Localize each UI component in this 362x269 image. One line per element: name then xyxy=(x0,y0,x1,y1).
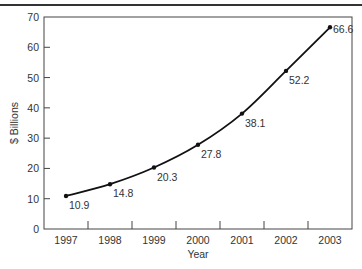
data-label: 38.1 xyxy=(245,117,266,129)
y-tick-label: 40 xyxy=(27,102,39,114)
data-point xyxy=(328,25,332,29)
x-axis-title: Year xyxy=(187,248,209,260)
x-tick-label: 2003 xyxy=(318,234,342,246)
x-axis: 1997199819992000200120022003 xyxy=(54,221,342,246)
data-label: 66.6 xyxy=(333,23,354,35)
data-label: 27.8 xyxy=(201,148,222,160)
x-tick-label: 1999 xyxy=(142,234,166,246)
data-point xyxy=(108,182,112,186)
line-chart: 010203040506070 199719981999200020012002… xyxy=(0,0,362,269)
series-line xyxy=(66,27,330,196)
y-tick-label: 0 xyxy=(33,223,39,235)
data-label: 20.3 xyxy=(157,171,178,183)
plot-frame xyxy=(44,17,352,229)
data-point xyxy=(152,165,156,169)
data-points: 10.914.820.327.838.152.266.6 xyxy=(64,23,354,211)
x-tick-label: 1998 xyxy=(98,234,122,246)
y-axis: 010203040506070 xyxy=(27,11,50,235)
y-tick-label: 20 xyxy=(27,162,39,174)
x-tick-label: 2002 xyxy=(274,234,298,246)
y-tick-label: 60 xyxy=(27,41,39,53)
y-tick-label: 70 xyxy=(27,11,39,23)
data-point xyxy=(284,69,288,73)
y-tick-label: 10 xyxy=(27,193,39,205)
x-tick-label: 2001 xyxy=(230,234,254,246)
data-point xyxy=(196,143,200,147)
y-tick-label: 30 xyxy=(27,132,39,144)
y-tick-label: 50 xyxy=(27,72,39,84)
y-axis-title: $ Billions xyxy=(8,102,20,144)
x-tick-label: 1997 xyxy=(54,234,78,246)
data-label: 52.2 xyxy=(289,74,310,86)
data-point xyxy=(64,194,68,198)
x-tick-label: 2000 xyxy=(186,234,210,246)
data-label: 14.8 xyxy=(113,187,134,199)
data-label: 10.9 xyxy=(69,199,90,211)
data-point xyxy=(240,111,244,115)
